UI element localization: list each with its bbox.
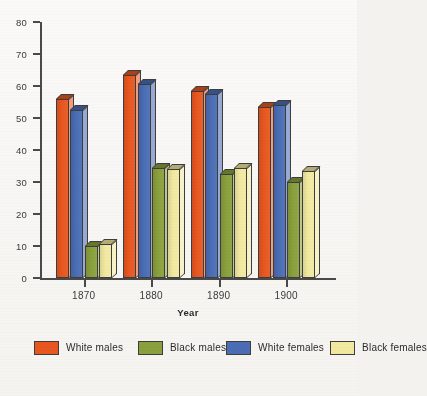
y-axis-tick: 0: [33, 277, 40, 279]
legend-swatch: [138, 341, 163, 355]
x-axis-tick: 1900: [286, 280, 288, 287]
legend-label: Black females: [362, 342, 427, 353]
bar-black-females-1880: [167, 169, 180, 278]
bar-black-males-1900: [287, 182, 300, 278]
bar-white-females-1900: [273, 105, 286, 278]
y-axis-tick: 60: [33, 85, 40, 87]
y-axis-tick-label: 60: [16, 81, 27, 92]
x-axis-title: Year: [40, 307, 336, 318]
bar-side-face: [112, 240, 117, 278]
x-axis-tick-label: 1880: [140, 290, 163, 301]
y-axis-tick: 40: [33, 149, 40, 151]
legend-item-black-males: Black males: [138, 341, 226, 355]
bar-front-face: [99, 244, 112, 278]
bar-side-face: [247, 163, 252, 278]
legend-item-white-females: White females: [226, 341, 330, 355]
bar-black-males-1880: [152, 168, 165, 278]
bar-front-face: [273, 105, 286, 278]
legend-swatch: [226, 341, 251, 355]
y-axis-tick-label: 50: [16, 113, 27, 124]
bar-front-face: [302, 171, 315, 278]
bar-white-males-1880: [123, 75, 136, 278]
bar-front-face: [220, 174, 233, 278]
bar-black-females-1870: [99, 244, 112, 278]
bar-front-face: [234, 168, 247, 278]
y-axis-tick-label: 70: [16, 49, 27, 60]
bar-front-face: [85, 246, 98, 278]
x-axis-tick-label: 1870: [72, 290, 95, 301]
bar-front-face: [123, 75, 136, 278]
bar-front-face: [70, 110, 83, 278]
x-axis-tick-label: 1890: [207, 290, 230, 301]
bar-black-males-1870: [85, 246, 98, 278]
legend-label: White females: [258, 342, 324, 353]
legend-label: White males: [66, 342, 123, 353]
y-axis-tick: 70: [33, 53, 40, 55]
bar-front-face: [287, 182, 300, 278]
x-axis-tick: 1880: [151, 280, 153, 287]
bar-front-face: [205, 94, 218, 278]
x-axis-tick: 1870: [84, 280, 86, 287]
legend-swatch: [330, 341, 355, 355]
bar-white-females-1890: [205, 94, 218, 278]
bar-white-females-1880: [138, 84, 151, 278]
bar-front-face: [258, 107, 271, 278]
bar-white-females-1870: [70, 110, 83, 278]
bar-front-face: [152, 168, 165, 278]
y-axis-tick: 50: [33, 117, 40, 119]
bar-black-females-1890: [234, 168, 247, 278]
plot-area: 01020304050607080 1870188018901900: [40, 22, 336, 280]
chart-legend: White malesBlack malesWhite femalesBlack…: [34, 336, 324, 359]
bar-white-males-1870: [56, 99, 69, 278]
bar-white-males-1890: [191, 91, 204, 278]
bar-side-face: [315, 166, 320, 278]
y-axis-tick-label: 10: [16, 241, 27, 252]
y-axis-tick: 30: [33, 181, 40, 183]
y-axis-tick-label: 40: [16, 145, 27, 156]
legend-item-white-males: White males: [34, 341, 138, 355]
y-axis-tick-label: 0: [22, 273, 27, 284]
bar-front-face: [167, 169, 180, 278]
y-axis-tick-label: 20: [16, 209, 27, 220]
bar-front-face: [191, 91, 204, 278]
bar-black-males-1890: [220, 174, 233, 278]
bar-front-face: [56, 99, 69, 278]
y-axis-tick-label: 30: [16, 177, 27, 188]
legend-swatch: [34, 341, 59, 355]
bar-side-face: [180, 165, 185, 278]
legend-label: Black males: [170, 342, 226, 353]
bar-front-face: [138, 84, 151, 278]
x-axis-tick: 1890: [219, 280, 221, 287]
y-axis-tick: 80: [33, 21, 40, 23]
legend-item-black-females: Black females: [330, 341, 427, 355]
y-axis-line: [40, 22, 42, 280]
y-axis-tick-label: 80: [16, 17, 27, 28]
bar-black-females-1900: [302, 171, 315, 278]
bar-white-males-1900: [258, 107, 271, 278]
x-axis-tick-label: 1900: [275, 290, 298, 301]
y-axis-tick: 10: [33, 245, 40, 247]
y-axis-tick: 20: [33, 213, 40, 215]
